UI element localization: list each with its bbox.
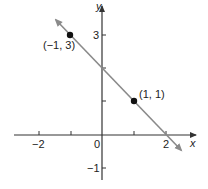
y-tick-label-neg1: −1 xyxy=(87,163,100,174)
point-label-1-1: (1, 1) xyxy=(139,89,165,100)
x-tick-label-0: 0 xyxy=(94,139,100,150)
point-1-1 xyxy=(131,98,137,104)
y-tick-label-3: 3 xyxy=(93,30,99,41)
x-axis-label: x xyxy=(190,138,196,149)
plot-svg xyxy=(0,0,208,189)
x-tick-label-neg2: −2 xyxy=(32,139,45,150)
y-axis-label: y xyxy=(96,1,102,12)
x-tick-label-2: 2 xyxy=(163,139,169,150)
coordinate-plot: y x 3 −1 −2 0 2 (−1, 3) (1, 1) xyxy=(0,0,208,189)
point-label-neg1-3: (−1, 3) xyxy=(43,40,75,51)
point-neg1-3 xyxy=(67,32,73,38)
